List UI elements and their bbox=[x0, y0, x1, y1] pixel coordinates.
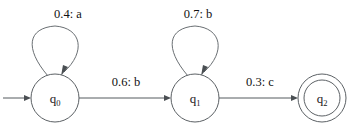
transition-q1-q2-arrow-head bbox=[291, 95, 298, 101]
transition-q0-q1-arrow-head bbox=[164, 95, 171, 101]
self-loop-q1-arrow-head bbox=[201, 65, 208, 76]
self-loop-q0-path bbox=[32, 26, 78, 76]
self-loop-q0[interactable] bbox=[32, 26, 78, 76]
automaton-diagram: q0 q1 q2 0.4: a 0.6: b 0.7: b 0.3: c bbox=[0, 0, 349, 125]
transition-label-q1-q2: 0.3: c bbox=[246, 75, 274, 89]
transition-label-q1-q1: 0.7: b bbox=[184, 7, 212, 21]
start-arrow-head bbox=[24, 95, 31, 101]
state-node-q0[interactable]: q0 bbox=[31, 74, 79, 122]
self-loop-q1-path bbox=[172, 26, 218, 76]
self-loop-q0-arrow-head bbox=[61, 65, 68, 76]
state-node-q2[interactable]: q2 bbox=[298, 74, 346, 122]
start-arrow bbox=[3, 95, 31, 101]
self-loop-q1[interactable] bbox=[172, 26, 218, 76]
automaton-canvas: q0 q1 q2 0.4: a 0.6: b 0.7: b 0.3: c bbox=[0, 0, 349, 125]
transition-label-q0-q1: 0.6: b bbox=[112, 75, 140, 89]
state-node-q1[interactable]: q1 bbox=[171, 74, 219, 122]
transition-q1-q2[interactable] bbox=[219, 95, 298, 101]
transition-q0-q1[interactable] bbox=[79, 95, 171, 101]
transition-label-q0-q0: 0.4: a bbox=[54, 7, 82, 21]
